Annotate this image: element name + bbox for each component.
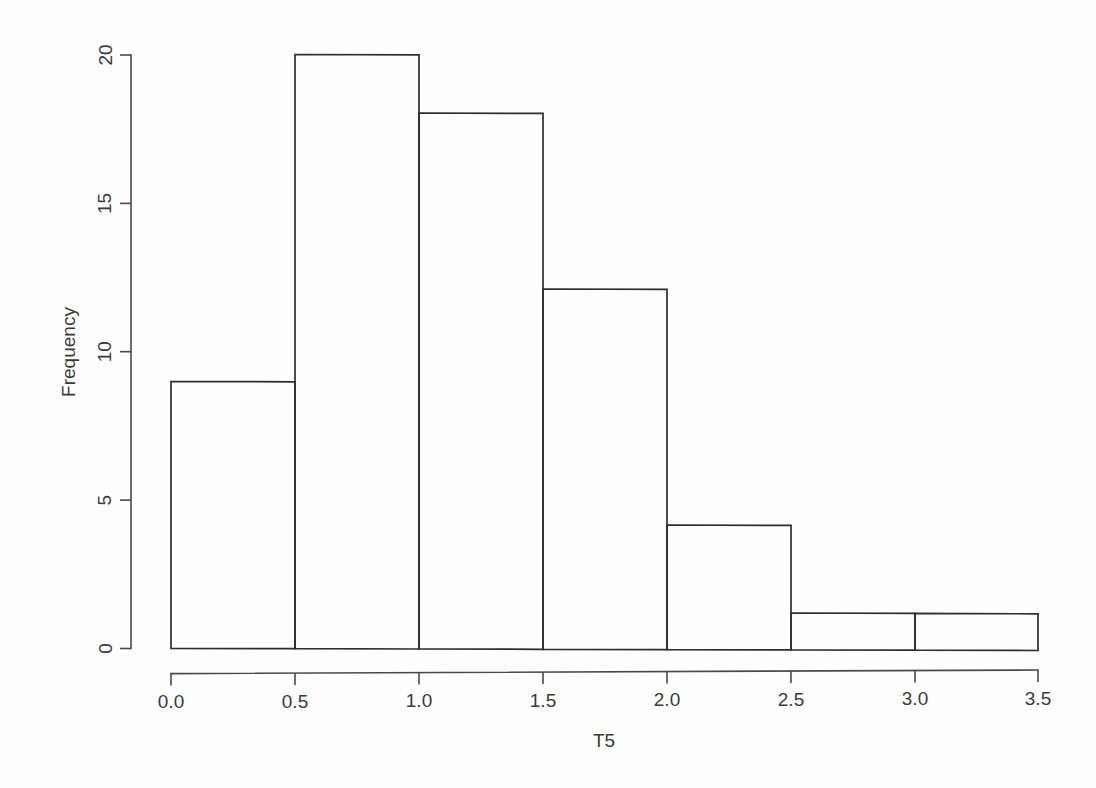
- histogram-bar-bin-3: [419, 113, 543, 649]
- y-axis-tick-label-5: 5: [95, 495, 116, 506]
- histogram-bar-bin-1: [171, 382, 295, 649]
- histogram-bar-bin-6: [791, 613, 915, 650]
- histogram-figure: 20 15 10 5 0 Frequency 0.0 0.5 1.0 1.5 2…: [0, 0, 1096, 788]
- x-axis-tick-label-2.0: 2.0: [654, 689, 680, 710]
- x-axis-tick-label-1.5: 1.5: [530, 690, 556, 711]
- y-axis-tick-label-0: 0: [95, 643, 116, 654]
- x-axis-tick-label-1.0: 1.0: [406, 690, 432, 711]
- y-axis-tick-label-20: 20: [95, 44, 116, 65]
- histogram-bar-bin-5: [667, 525, 791, 650]
- x-axis-tick-label-0.0: 0.0: [158, 691, 184, 712]
- x-axis-tick-label-3.5: 3.5: [1025, 688, 1051, 709]
- x-axis-tick-label-2.5: 2.5: [778, 689, 804, 710]
- y-axis-tick-label-15: 15: [95, 193, 116, 214]
- x-axis-tick-label-3.0: 3.0: [902, 688, 928, 709]
- x-axis-tick-label-0.5: 0.5: [282, 691, 308, 712]
- x-axis-line: [171, 670, 1038, 674]
- y-axis-tick-label-10: 10: [95, 341, 116, 362]
- histogram-bar-bin-7: [915, 613, 1038, 650]
- x-axis-title: T5: [593, 730, 615, 751]
- plot-canvas: 20 15 10 5 0 Frequency 0.0 0.5 1.0 1.5 2…: [0, 0, 1096, 788]
- x-axis: 0.0 0.5 1.0 1.5 2.0 2.5 3.0 3.5 T5: [158, 670, 1051, 751]
- y-axis-title: Frequency: [58, 307, 79, 397]
- histogram-bar-bin-4: [543, 289, 667, 650]
- histogram-bar-bin-2: [295, 55, 419, 650]
- histogram-bars: [171, 55, 1038, 651]
- y-axis: 20 15 10 5 0 Frequency: [58, 44, 132, 653]
